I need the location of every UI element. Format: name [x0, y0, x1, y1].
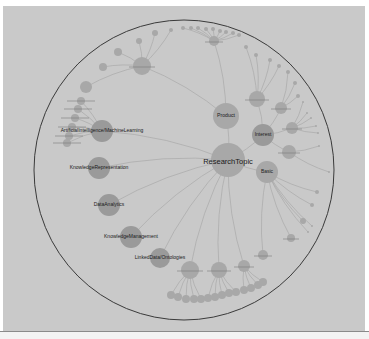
leaf-node[interactable] — [254, 53, 258, 57]
node-label: Product — [217, 112, 235, 118]
nodes-layer — [88, 36, 298, 279]
leaf-node[interactable] — [247, 284, 255, 292]
leaf-node[interactable] — [181, 26, 185, 30]
leaf-node[interactable] — [328, 171, 330, 173]
leaf-node[interactable] — [189, 26, 193, 30]
leaf-node[interactable] — [190, 295, 198, 303]
labels-layer: ResearchTopicProductInterestBasicArtific… — [53, 42, 302, 271]
tree-node[interactable] — [181, 261, 199, 279]
leaf-node[interactable] — [244, 45, 248, 49]
tree-link — [142, 66, 226, 116]
node-label: ArtificialIntelligence/MachineLearning — [61, 127, 144, 133]
leaf-node[interactable] — [296, 94, 300, 98]
leaf-node[interactable] — [240, 286, 248, 294]
leaf-node[interactable] — [211, 293, 219, 301]
leaf-node[interactable] — [293, 81, 297, 85]
tree-node[interactable] — [275, 102, 287, 114]
tree-node[interactable] — [133, 57, 151, 75]
leaf-node[interactable] — [218, 29, 222, 33]
tree-node[interactable] — [286, 122, 298, 134]
leaf-node[interactable] — [302, 101, 304, 103]
leaf-node[interactable] — [225, 289, 233, 297]
tree-link — [190, 160, 228, 270]
leaf-node[interactable] — [211, 27, 215, 31]
leaf-node[interactable] — [99, 63, 107, 71]
node-label: Basic — [261, 168, 274, 174]
tree-link — [102, 131, 228, 160]
leaf-node[interactable] — [196, 26, 200, 30]
leaf-node[interactable] — [259, 278, 267, 286]
leaf-node[interactable] — [204, 27, 208, 31]
leaf-node[interactable] — [318, 145, 320, 147]
leaf-node[interactable] — [224, 30, 228, 34]
tree-link — [131, 160, 228, 237]
tree-node[interactable] — [258, 250, 268, 260]
tree-link — [261, 172, 267, 255]
tree-node[interactable] — [287, 234, 295, 242]
leaf-node[interactable] — [310, 203, 314, 207]
leaf-node[interactable] — [231, 31, 235, 35]
leaf-node[interactable] — [232, 288, 240, 296]
leaf-node[interactable] — [311, 225, 313, 227]
leaf-node[interactable] — [315, 190, 319, 194]
leaf-node[interactable] — [277, 64, 281, 68]
leaf-node[interactable] — [114, 48, 122, 56]
leaf-node[interactable] — [315, 125, 317, 127]
leaf-node[interactable] — [317, 132, 319, 134]
leaf-node[interactable] — [182, 295, 190, 303]
leaf-node[interactable] — [286, 70, 290, 74]
tree-node[interactable] — [209, 36, 219, 46]
tree-link — [183, 28, 214, 41]
leaf-node[interactable] — [218, 291, 226, 299]
node-label: LinkedData/Ontologies — [135, 254, 186, 260]
leaf-node[interactable] — [268, 58, 272, 62]
node-label: DataAnalytics — [94, 201, 125, 207]
leaf-node[interactable] — [152, 30, 158, 36]
leaf-node[interactable] — [310, 117, 312, 119]
leaf-node[interactable] — [174, 293, 182, 301]
leaf-node[interactable] — [136, 38, 142, 44]
leaf-node[interactable] — [306, 112, 308, 114]
leaf-node[interactable] — [237, 33, 241, 37]
node-label: KnowledgeManagement — [104, 233, 159, 239]
leaf-node[interactable] — [80, 81, 92, 93]
leaf-node[interactable] — [204, 294, 212, 302]
tree-node[interactable] — [238, 260, 250, 272]
node-label: Interest — [255, 131, 272, 137]
tree-node[interactable] — [211, 262, 227, 278]
tree-node[interactable] — [282, 145, 296, 159]
leaf-node[interactable] — [300, 218, 306, 224]
leaf-node[interactable] — [167, 291, 175, 299]
node-label: ResearchTopic — [203, 157, 253, 166]
leaf-node[interactable] — [197, 295, 205, 303]
leaf-node[interactable] — [169, 28, 173, 32]
leaf-node[interactable] — [307, 231, 309, 233]
tree-node[interactable] — [249, 91, 265, 107]
node-label: KnowledgeRepresentation — [70, 164, 129, 170]
